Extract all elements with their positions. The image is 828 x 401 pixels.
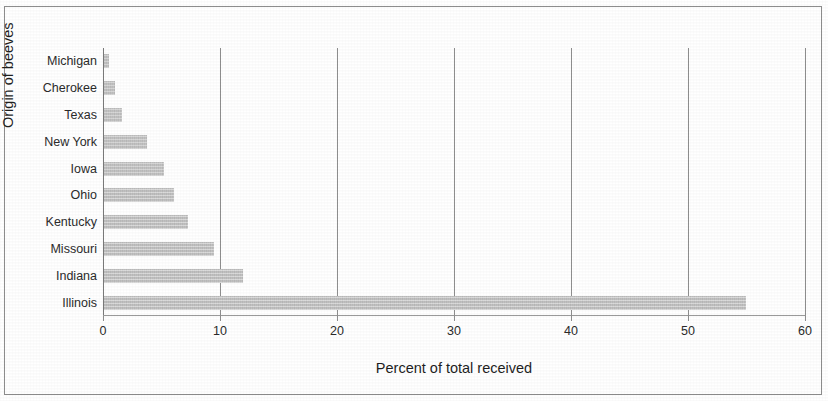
x-axis-tick-mark (688, 316, 689, 321)
x-axis-tick-mark (103, 316, 104, 321)
x-axis-tick-mark (805, 316, 806, 321)
y-axis-tick-label: Texas (1, 108, 97, 122)
bar (104, 162, 164, 176)
bar (104, 81, 115, 95)
bar (104, 108, 122, 122)
y-axis-tick-label: Kentucky (1, 215, 97, 229)
bar-row (104, 155, 806, 182)
bar-row (104, 289, 806, 316)
bar (104, 188, 174, 202)
bar-row (104, 102, 806, 129)
x-axis-tick-mark (571, 316, 572, 321)
bar-row (104, 48, 806, 75)
y-axis-tick-label: Indiana (1, 269, 97, 283)
x-axis-tick-mark (337, 316, 338, 321)
bar (104, 54, 109, 68)
x-axis-tick-label: 0 (100, 324, 107, 338)
bar-row (104, 262, 806, 289)
bar (104, 296, 746, 310)
x-axis-tick-mark (220, 316, 221, 321)
bar (104, 242, 214, 256)
bar-row (104, 182, 806, 209)
x-axis-tick-label: 10 (213, 324, 227, 338)
x-axis-tick-mark (454, 316, 455, 321)
y-axis-tick-label: Cherokee (1, 81, 97, 95)
x-axis-tick-label: 30 (447, 324, 461, 338)
x-axis-tick-label: 20 (330, 324, 344, 338)
bar-row (104, 209, 806, 236)
x-axis-tick-label: 40 (564, 324, 578, 338)
figure-bar-chart: Origin of beeves MichiganCherokeeTexasNe… (0, 0, 828, 401)
plot-area (103, 48, 805, 316)
bar (104, 215, 188, 229)
y-axis-tick-labels: MichiganCherokeeTexasNew YorkIowaOhioKen… (0, 48, 97, 316)
y-axis-tick-label: New York (1, 135, 97, 149)
bar-row (104, 75, 806, 102)
x-axis-tick-label: 60 (798, 324, 812, 338)
x-axis-tick-label: 50 (681, 324, 695, 338)
x-axis-title: Percent of total received (103, 360, 805, 376)
bar-row (104, 128, 806, 155)
bar (104, 269, 243, 283)
bar-row (104, 236, 806, 263)
y-axis-tick-label: Michigan (1, 54, 97, 68)
y-axis-tick-label: Iowa (1, 162, 97, 176)
bar (104, 135, 147, 149)
y-axis-tick-label: Ohio (1, 188, 97, 202)
y-axis-tick-label: Illinois (1, 296, 97, 310)
y-axis-tick-label: Missouri (1, 242, 97, 256)
